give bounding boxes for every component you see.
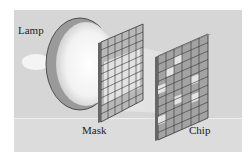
chip-label: Chip	[189, 124, 210, 136]
mask-label: Mask	[82, 124, 106, 136]
lamp-label: Lamp	[18, 24, 44, 36]
